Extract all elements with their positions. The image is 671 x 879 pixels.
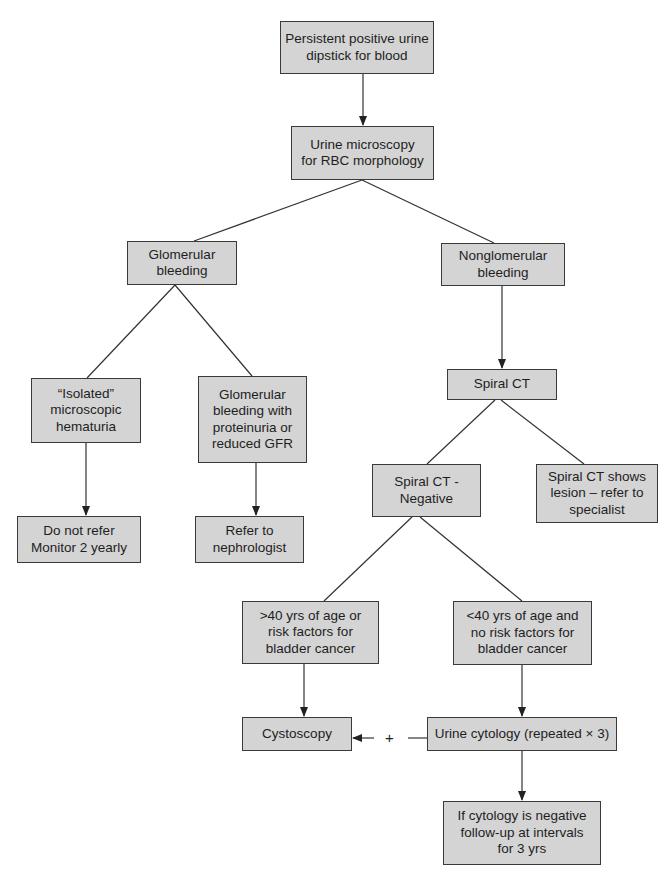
connector-ctnegative-under40 xyxy=(420,517,522,601)
connector-glomerular-glomprotein xyxy=(175,285,252,376)
connector-spiralct-ctnegative xyxy=(427,400,495,464)
node-isolated-hematuria: “Isolated” microscopic hematuria xyxy=(31,378,141,443)
node-over-40-risk: >40 yrs of age or risk factors for bladd… xyxy=(242,601,379,664)
connector-microscopy-glomerular xyxy=(194,180,362,241)
node-nonglomerular-bleeding: Nonglomerular bleeding xyxy=(441,243,565,286)
node-refer-nephrologist: Refer to nephrologist xyxy=(195,516,304,563)
flowchart-canvas: Persistent positive urine dipstick for b… xyxy=(0,0,671,879)
node-glomerular-proteinuria: Glomerular bleeding with proteinuria or … xyxy=(198,376,307,463)
node-urine-cytology: Urine cytology (repeated × 3) xyxy=(427,717,617,751)
node-do-not-refer: Do not refer Monitor 2 yearly xyxy=(17,516,141,563)
connector-ctnegative-over40 xyxy=(324,517,412,601)
node-cystoscopy: Cystoscopy xyxy=(242,717,352,751)
node-cytology-followup: If cytology is negative follow-up at int… xyxy=(443,801,601,865)
node-spiral-ct-negative: Spiral CT - Negative xyxy=(372,464,481,517)
connector-spiralct-ctlesion xyxy=(501,400,584,464)
connector-microscopy-nonglomerular xyxy=(362,180,494,243)
node-urine-microscopy: Urine microscopy for RBC morphology xyxy=(291,126,434,180)
node-persistent-dipstick: Persistent positive urine dipstick for b… xyxy=(280,21,434,74)
node-under-40-no-risk: <40 yrs of age and no risk factors for b… xyxy=(453,601,592,665)
connector-glomerular-isolated xyxy=(87,285,175,378)
plus-label: + xyxy=(385,729,394,746)
node-spiral-ct-lesion: Spiral CT shows lesion – refer to specia… xyxy=(536,464,658,523)
node-glomerular-bleeding: Glomerular bleeding xyxy=(127,241,237,285)
node-spiral-ct: Spiral CT xyxy=(447,369,557,400)
